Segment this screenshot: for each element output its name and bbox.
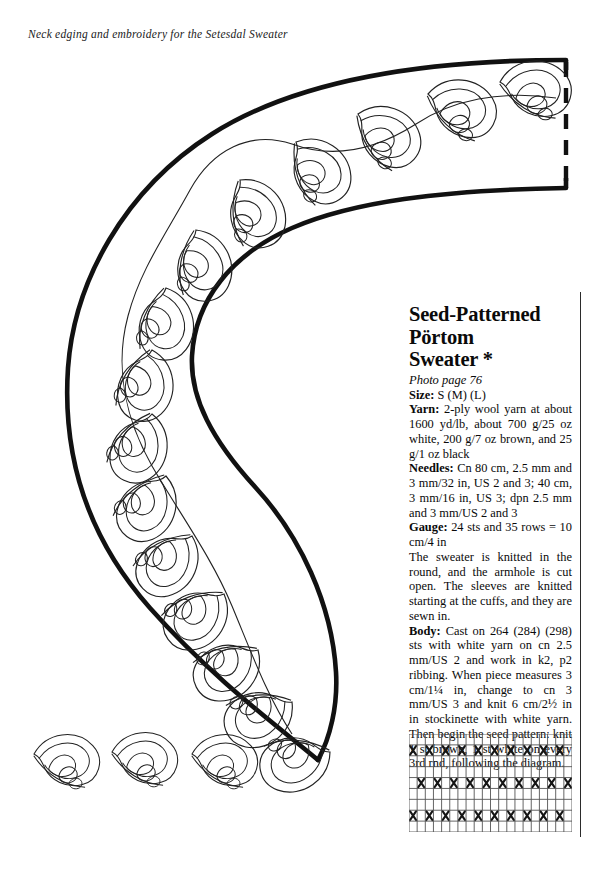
chart-cell-marked [475, 746, 481, 755]
detached-embroidery-motifs [30, 728, 261, 792]
chart-cell-marked [491, 746, 497, 755]
spec-size-value: S (M) (L) [438, 388, 486, 402]
pattern-title-line-1: Seed-Patterned [409, 303, 572, 326]
pattern-text-column: Seed-Patterned Pörtom Sweater * Photo pa… [409, 303, 572, 771]
chart-cell-marked [434, 779, 440, 788]
pattern-title: Seed-Patterned Pörtom Sweater * [409, 303, 572, 371]
intro-paragraph: The sweater is knitted in the round, and… [409, 550, 572, 624]
spec-yarn-label: Yarn: [409, 402, 439, 416]
spec-gauge: Gauge: 24 sts and 35 rows = 10 cm/4 in [409, 520, 572, 550]
chart-cell-marked [557, 746, 563, 755]
chart-cell-marked [540, 746, 546, 755]
chart-cell-marked [524, 811, 530, 820]
chart-cell-marked [467, 779, 473, 788]
chart-cell-marked [532, 779, 538, 788]
body-label: Body: [409, 624, 441, 638]
spec-size: Size: S (M) (L) [409, 388, 572, 403]
chart-cell-marked [508, 811, 514, 820]
chart-cell-marked [459, 811, 465, 820]
photo-reference: Photo page 76 [409, 373, 572, 388]
seed-pattern-chart [409, 734, 572, 832]
pattern-title-line-2: Pörtom [409, 326, 572, 349]
chart-cell-marked [418, 779, 424, 788]
chart-cell-marked [410, 811, 416, 820]
chart-cell-marked [451, 779, 457, 788]
chart-cell-marked [483, 779, 489, 788]
spec-size-label: Size: [409, 388, 434, 402]
chart-cell-marked [565, 779, 571, 788]
spec-needles-label: Needles: [409, 461, 454, 475]
chart-cell-marked [443, 811, 449, 820]
spec-needles: Needles: Cn 80 cm, 2.5 mm and 3 mm/32 in… [409, 461, 572, 520]
chart-cell-marked [540, 811, 546, 820]
spec-gauge-label: Gauge: [409, 520, 448, 534]
column-divider-rule [580, 292, 581, 837]
chart-cell-marked [508, 746, 514, 755]
chart-cell-marked [491, 811, 497, 820]
pattern-title-line-3: Sweater * [409, 348, 572, 371]
chart-cell-marked [459, 746, 465, 755]
chart-cell-marked [426, 746, 432, 755]
chart-cell-marked [524, 746, 530, 755]
chart-cell-marked [500, 779, 506, 788]
chart-cell-marked [410, 746, 416, 755]
chart-cell-marked [516, 779, 522, 788]
chart-cell-marked [475, 811, 481, 820]
chart-cell-marked [557, 811, 563, 820]
chart-cell-marked [549, 779, 555, 788]
chart-cell-marked [426, 811, 432, 820]
spec-yarn: Yarn: 2-ply wool yarn at about 1600 yd/l… [409, 402, 572, 461]
chart-cell-marked [443, 746, 449, 755]
seed-pattern-chart-svg [409, 734, 572, 832]
